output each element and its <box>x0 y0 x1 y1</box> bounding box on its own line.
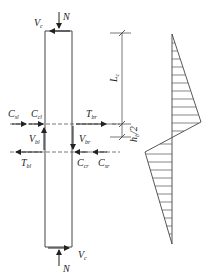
t-bl-label: Tbl <box>21 157 32 169</box>
v-bl-label: Vbl <box>29 133 40 145</box>
c-sl-label: Csl <box>8 108 19 120</box>
hb2-label: hb/2 <box>128 126 140 142</box>
v-br-label: Vbr <box>79 133 91 145</box>
top-shear-label: Vc <box>34 17 43 29</box>
c-sr-label: Csr <box>98 157 110 169</box>
c-cl-label: Ccl <box>31 108 42 120</box>
column <box>45 31 72 247</box>
t-br-label: Tbr <box>86 108 98 120</box>
lc-label: Lc <box>108 73 120 83</box>
c-cr-label: Ccr <box>77 157 89 169</box>
joint-diagram: N Vc N Vc Csl Ccl Tbr Vbl Vbr Tbl Ccr Cs… <box>0 0 209 279</box>
dimension-line <box>110 30 131 140</box>
top-axial-label: N <box>62 11 71 22</box>
shear-diagram <box>145 34 201 244</box>
bottom-axial-label: N <box>62 263 71 274</box>
bottom-shear-label: Vc <box>78 249 87 261</box>
